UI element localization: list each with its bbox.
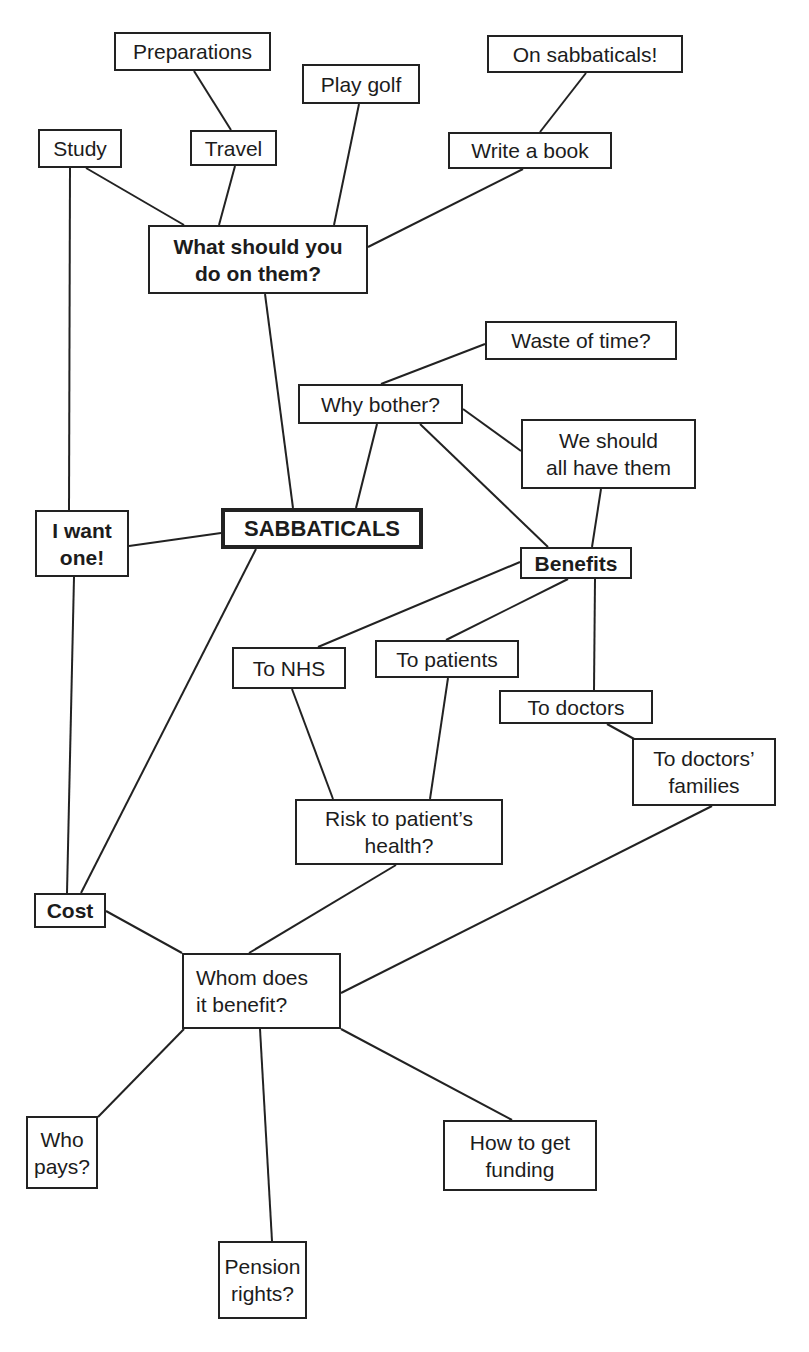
edge-benefits-to-to-doctors xyxy=(594,579,595,690)
edge-whom-does-it-benefit-to-who-pays xyxy=(98,1029,184,1117)
edge-why-bother-to-we-should-all-have-them xyxy=(463,409,521,451)
edge-play-golf-to-what-should-you-do xyxy=(334,104,359,225)
node-whom-does-it-benefit: Whom does it benefit? xyxy=(182,953,341,1029)
edge-benefits-to-to-patients xyxy=(446,579,568,640)
edge-on-sabbaticals-to-write-a-book xyxy=(540,73,586,132)
edge-cost-to-whom-does-it-benefit xyxy=(106,911,182,953)
edge-write-a-book-to-what-should-you-do xyxy=(368,169,523,247)
node-study: Study xyxy=(38,129,122,168)
edge-whom-does-it-benefit-to-pension-rights xyxy=(260,1029,272,1241)
node-write-a-book: Write a book xyxy=(448,132,612,169)
node-sabbaticals: SABBATICALS xyxy=(221,508,423,549)
edge-preparations-to-travel xyxy=(194,71,231,130)
node-play-golf: Play golf xyxy=(302,64,420,104)
edge-sabbaticals-to-cost xyxy=(81,549,256,893)
node-waste-of-time: Waste of time? xyxy=(485,321,677,360)
edge-to-patients-to-risk-to-patients-health xyxy=(430,678,448,799)
node-to-doctors: To doctors xyxy=(499,690,653,724)
edge-to-nhs-to-risk-to-patients-health xyxy=(292,689,333,799)
edge-whom-does-it-benefit-to-how-to-get-funding xyxy=(341,1029,512,1120)
node-to-nhs: To NHS xyxy=(232,647,346,689)
edge-i-want-one-to-cost xyxy=(67,577,74,893)
node-who-pays: Who pays? xyxy=(26,1116,98,1189)
edge-we-should-all-have-them-to-benefits xyxy=(592,489,601,547)
edge-what-should-you-do-to-sabbaticals xyxy=(265,294,293,508)
node-to-doctors-families: To doctors’ families xyxy=(632,738,776,806)
node-pension-rights: Pension rights? xyxy=(218,1241,307,1319)
node-to-patients: To patients xyxy=(375,640,519,678)
edge-i-want-one-to-sabbaticals xyxy=(129,533,221,546)
edge-travel-to-what-should-you-do xyxy=(219,166,235,225)
edge-why-bother-to-waste-of-time xyxy=(381,344,485,384)
node-what-should-you-do: What should you do on them? xyxy=(148,225,368,294)
node-i-want-one: I want one! xyxy=(35,510,129,577)
edge-risk-to-patients-health-to-whom-does-it-benefit xyxy=(249,865,396,953)
node-benefits: Benefits xyxy=(520,547,632,579)
node-on-sabbaticals: On sabbaticals! xyxy=(487,35,683,73)
node-we-should-all-have-them: We should all have them xyxy=(521,419,696,489)
node-preparations: Preparations xyxy=(114,32,271,71)
node-how-to-get-funding: How to get funding xyxy=(443,1120,597,1191)
edge-benefits-to-to-nhs xyxy=(318,562,520,647)
edge-why-bother-to-sabbaticals xyxy=(356,424,377,508)
edge-study-to-what-should-you-do xyxy=(86,168,184,225)
node-why-bother: Why bother? xyxy=(298,384,463,424)
node-risk-to-patients-health: Risk to patient’s health? xyxy=(295,799,503,865)
node-cost: Cost xyxy=(34,893,106,928)
edge-study-to-i-want-one xyxy=(69,168,70,510)
node-travel: Travel xyxy=(190,130,277,166)
